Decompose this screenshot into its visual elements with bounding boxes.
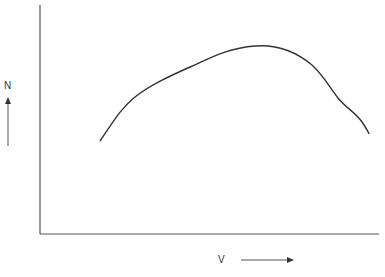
curve-line: [100, 46, 369, 141]
x-axis-label: V: [218, 254, 225, 265]
right-arrow-icon: [287, 257, 294, 263]
y-axis-label: N: [4, 80, 11, 91]
chart-canvas: [0, 0, 385, 277]
up-arrow-icon: [5, 97, 11, 104]
